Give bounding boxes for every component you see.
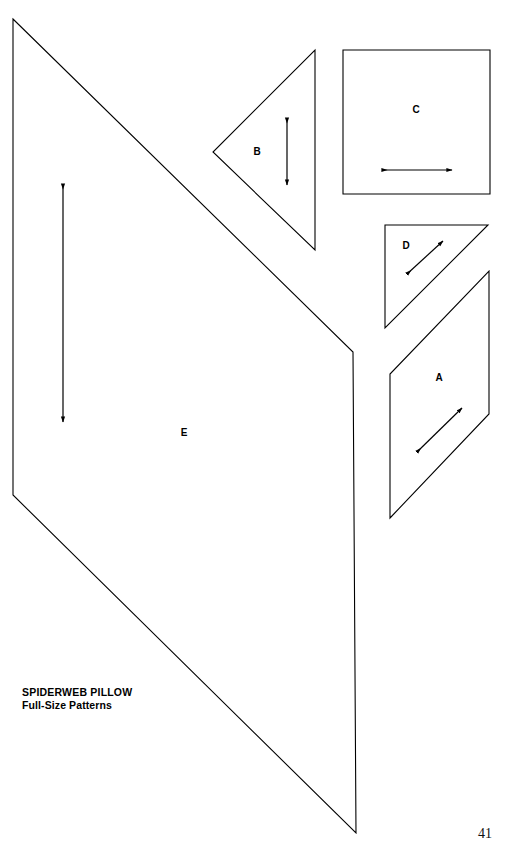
piece-c-group: C (343, 50, 490, 194)
page-number: 41 (478, 826, 492, 842)
piece-b-outline (213, 50, 315, 250)
piece-a-label: A (435, 372, 442, 383)
piece-c-outline (343, 50, 490, 194)
piece-b-label: B (253, 146, 260, 157)
pattern-diagram: E B C D A (0, 0, 514, 852)
piece-d-label: D (402, 240, 409, 251)
piece-e-label: E (181, 427, 188, 438)
piece-b-group: B (213, 50, 315, 250)
piece-c-label: C (412, 104, 419, 115)
caption-subtitle: Full-Size Patterns (22, 699, 132, 712)
pattern-caption: SPIDERWEB PILLOW Full-Size Patterns (22, 686, 132, 713)
pattern-sheet: E B C D A SPIDERWEB PILLOW Full-Size Pat… (0, 0, 514, 852)
caption-title: SPIDERWEB PILLOW (22, 686, 132, 699)
